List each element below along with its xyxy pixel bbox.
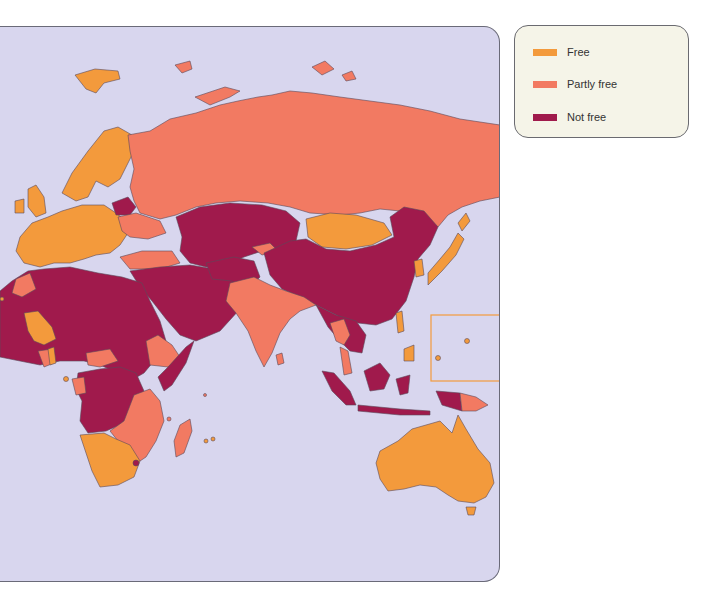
region-indonesia-islands [358, 405, 430, 415]
legend-swatch-free [533, 49, 557, 56]
legend-item-free: Free [533, 45, 590, 59]
island-dot [0, 297, 4, 301]
region-arctic-islands [175, 61, 356, 81]
region-tasmania [466, 507, 476, 515]
island-dot [204, 394, 207, 397]
region-philippines [396, 311, 414, 361]
world-freedom-map [0, 26, 500, 582]
legend-label-free: Free [567, 46, 590, 58]
region-uk [28, 185, 46, 217]
legend-item-not-free: Not free [533, 110, 606, 124]
region-scandinavia [62, 127, 134, 201]
legend-swatch-not-free [533, 114, 557, 121]
island-dot [436, 356, 441, 361]
legend-label-not-free: Not free [567, 111, 606, 123]
island-dot [64, 377, 69, 382]
inset-box [431, 315, 500, 381]
island-dot [204, 439, 208, 443]
island-dot [465, 339, 470, 344]
region-ireland [15, 199, 24, 213]
region-sri-lanka [276, 353, 284, 365]
region-russia [128, 91, 500, 227]
region-papua-new-guinea [460, 393, 488, 411]
region-australia [376, 415, 494, 503]
island-dot [167, 417, 171, 421]
legend-swatch-partly-free [533, 81, 557, 88]
region-svalbard [75, 69, 120, 93]
region-gabon [72, 377, 86, 395]
legend-item-partly-free: Partly free [533, 77, 617, 91]
legend: Free Partly free Not free [514, 25, 689, 138]
map-svg [0, 26, 500, 582]
region-sulawesi [396, 375, 410, 395]
island-dot [211, 437, 215, 441]
legend-label-partly-free: Partly free [567, 78, 617, 90]
region-indonesia-sumatra [322, 371, 356, 405]
region-madagascar [174, 419, 192, 457]
region-papua-west [436, 391, 462, 411]
region-south-korea [414, 259, 424, 277]
region-western-europe [16, 205, 128, 267]
region-belarus [112, 197, 136, 215]
region-swaziland [133, 460, 139, 466]
region-indonesia-borneo [364, 363, 390, 391]
